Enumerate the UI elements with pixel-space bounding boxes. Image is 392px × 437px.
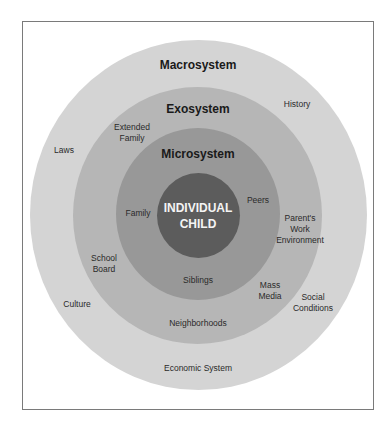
macrosystem-title: Macrosystem: [160, 60, 237, 71]
macro-item-history: History: [284, 99, 310, 110]
microsystem-title: Microsystem: [161, 149, 234, 160]
micro-item-peers: Peers: [247, 195, 269, 206]
exosystem-title: Exosystem: [166, 104, 229, 115]
exo-item-neighborhoods: Neighborhoods: [169, 318, 227, 329]
macro-item-economic-system: Economic System: [164, 363, 232, 374]
macro-item-culture: Culture: [63, 299, 90, 310]
individual-child-label: INDIVIDUAL CHILD: [164, 200, 233, 232]
exo-item-extended-family: Extended Family: [114, 122, 150, 144]
micro-item-family: Family: [125, 208, 150, 219]
micro-item-siblings: Siblings: [183, 275, 213, 286]
macro-item-social-conditions: Social Conditions: [293, 292, 333, 314]
exo-item-mass-media: Mass Media: [258, 280, 281, 302]
exo-item-parents-work-environment: Parent's Work Environment: [276, 213, 324, 246]
exo-item-school-board: School Board: [91, 253, 117, 275]
macro-item-laws: Laws: [54, 145, 74, 156]
